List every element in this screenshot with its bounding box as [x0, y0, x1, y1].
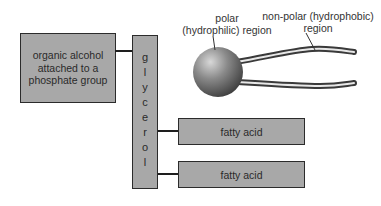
glycerol-letter: c	[142, 95, 148, 110]
phosphate-glycerol-connector	[115, 50, 133, 52]
fatty-acid-box-2: fatty acid	[178, 161, 305, 188]
fatty-acid-label: fatty acid	[220, 169, 262, 181]
glycerol-letter: e	[142, 110, 148, 125]
polar-head-sphere	[193, 47, 243, 97]
glycerol-fatty-acid-2-connector	[158, 173, 179, 175]
nonpolar-label-line1: non-polar (hydrophobic)	[258, 10, 378, 22]
fatty-acid-label: fatty acid	[220, 126, 262, 138]
phosphate-group-label: organic alcohol attached to a phosphate …	[25, 49, 111, 87]
glycerol-letter: r	[143, 125, 147, 140]
nonpolar-label-line2: region	[258, 22, 378, 34]
glycerol-letter: g	[142, 50, 148, 65]
glycerol-letter: l	[144, 65, 146, 80]
fatty-acid-box-1: fatty acid	[178, 118, 305, 145]
glycerol-letter: l	[144, 155, 146, 170]
nonpolar-region-label: non-polar (hydrophobic) region	[258, 10, 378, 34]
glycerol-column: g l y c e r o l	[132, 35, 158, 189]
phosphate-group-box: organic alcohol attached to a phosphate …	[20, 33, 116, 103]
glycerol-letter: o	[142, 140, 148, 155]
glycerol-fatty-acid-1-connector	[158, 130, 179, 132]
hydrophobic-tails	[236, 49, 354, 86]
glycerol-letter: y	[142, 80, 148, 95]
